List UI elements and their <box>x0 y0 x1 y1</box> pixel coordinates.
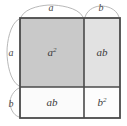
cell-ab-right-label: ab <box>97 46 109 58</box>
square-decomposition-diagram: a2ababb2 abab <box>0 0 127 126</box>
dim-left-a-label: a <box>9 47 14 58</box>
cell-ab-bottom-label: ab <box>47 96 59 108</box>
dim-top-b-label: b <box>99 2 104 13</box>
geometric-figure-container: a2ababb2 abab <box>0 0 127 126</box>
dim-left-b-label: b <box>9 98 14 109</box>
dim-top-a-label: a <box>49 2 54 13</box>
